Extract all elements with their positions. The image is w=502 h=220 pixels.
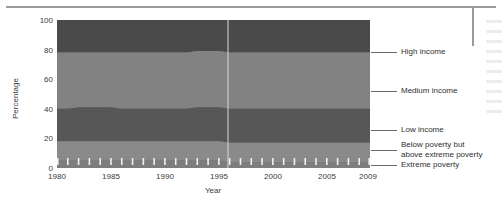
x-tick-mark-1997 bbox=[240, 158, 242, 165]
legend-label-low-income: Low income bbox=[401, 125, 444, 135]
x-tick-label-2009: 2009 bbox=[359, 172, 377, 181]
x-tick-label-2000: 2000 bbox=[264, 172, 282, 181]
y-tick-label-20: 20 bbox=[44, 134, 53, 143]
x-tick-mark-2007 bbox=[348, 158, 350, 165]
x-tick-mark-1998 bbox=[250, 158, 252, 165]
x-tick-mark-2001 bbox=[283, 158, 285, 165]
y-tick-label-80: 80 bbox=[44, 45, 53, 54]
x-tick-mark-2003 bbox=[304, 158, 306, 165]
x-tick-mark-2006 bbox=[337, 158, 339, 165]
x-tick-mark-1986 bbox=[121, 158, 123, 165]
y-tick-label-60: 60 bbox=[44, 75, 53, 84]
x-tick-label-1995: 1995 bbox=[210, 172, 228, 181]
legend-label-below-poverty: Below poverty but above extreme poverty bbox=[401, 140, 482, 159]
x-tick-mark-1999 bbox=[261, 158, 263, 165]
x-tick-mark-1990 bbox=[164, 158, 166, 165]
x-tick-mark-1988 bbox=[143, 158, 145, 165]
y-axis-title: Percentage bbox=[11, 64, 20, 134]
y-tick-label-40: 40 bbox=[44, 104, 53, 113]
x-tick-mark-2002 bbox=[294, 158, 296, 165]
x-tick-mark-2000 bbox=[272, 158, 274, 165]
x-tick-mark-1994 bbox=[207, 158, 209, 165]
x-axis-title: Year bbox=[205, 186, 221, 195]
area-bands bbox=[57, 20, 370, 168]
legend-leader-low-income bbox=[371, 130, 397, 131]
x-tick-mark-1996 bbox=[229, 158, 231, 165]
area-band-low-income bbox=[57, 107, 370, 143]
x-tick-label-1990: 1990 bbox=[156, 172, 174, 181]
legend-leader-medium-income bbox=[371, 91, 397, 92]
legend-label-below-poverty-line2: above extreme poverty bbox=[401, 150, 482, 159]
x-tick-mark-1983 bbox=[89, 158, 91, 165]
legend-label-high-income: High income bbox=[401, 47, 445, 57]
area-band-high-income bbox=[57, 20, 370, 53]
legend-leader-high-income bbox=[371, 52, 397, 53]
y-axis: 100 80 60 40 20 0 bbox=[0, 20, 53, 168]
x-tick-mark-1993 bbox=[197, 158, 199, 165]
legend-label-extreme-poverty: Extreme poverty bbox=[401, 160, 459, 170]
x-tick-mark-1992 bbox=[186, 158, 188, 165]
x-tick-mark-1984 bbox=[99, 158, 101, 165]
x-tick-mark-2005 bbox=[326, 158, 328, 165]
x-tick-label-1980: 1980 bbox=[48, 172, 66, 181]
x-tick-mark-1982 bbox=[78, 158, 80, 165]
x-tick-mark-1981 bbox=[67, 158, 69, 165]
y-tick-label-100: 100 bbox=[40, 16, 53, 25]
x-tick-mark-2004 bbox=[315, 158, 317, 165]
x-tick-mark-1985 bbox=[110, 158, 112, 165]
plot-area bbox=[57, 20, 370, 168]
x-tick-mark-1987 bbox=[132, 158, 134, 165]
x-tick-mark-1989 bbox=[153, 158, 155, 165]
x-tick-mark-1980 bbox=[57, 158, 59, 165]
x-tick-mark-2009 bbox=[368, 158, 370, 165]
stacked-area-chart: 100 80 60 40 20 0 Percentage 1980 1985 1… bbox=[0, 0, 502, 220]
x-tick-label-2005: 2005 bbox=[318, 172, 336, 181]
legend-leader-extreme-poverty bbox=[371, 165, 397, 166]
x-tick-label-1985: 1985 bbox=[102, 172, 120, 181]
legend-label-below-poverty-line1: Below poverty but bbox=[401, 140, 465, 149]
x-tick-mark-2008 bbox=[358, 158, 360, 165]
x-tick-mark-1991 bbox=[175, 158, 177, 165]
x-tick-mark-1995 bbox=[218, 158, 220, 165]
legend-leader-below-poverty bbox=[371, 150, 397, 151]
legend-label-medium-income: Medium income bbox=[401, 86, 457, 96]
figure-page: 100 80 60 40 20 0 Percentage 1980 1985 1… bbox=[0, 0, 502, 220]
area-band-medium-income bbox=[57, 51, 370, 109]
area-band-below-poverty-but-above-extreme-poverty bbox=[57, 141, 370, 162]
